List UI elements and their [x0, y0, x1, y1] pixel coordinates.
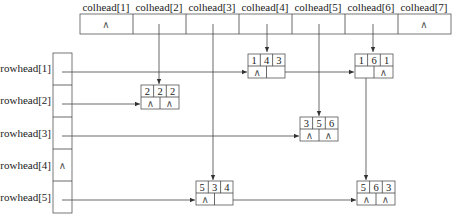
node-down-null: ∧	[306, 130, 313, 141]
node-1-6-1: 1 6 1 ∧	[355, 54, 393, 78]
node-val: 4	[224, 182, 230, 193]
colhead-label-6: colhead[6]	[347, 1, 394, 13]
node-val: 3	[276, 55, 281, 66]
rowhead-array: ∧	[53, 53, 72, 213]
colhead-label-7: colhead[7]	[400, 1, 447, 13]
node-row: 3	[304, 118, 309, 129]
node-right-null: ∧	[382, 194, 389, 205]
node-2-2-2: 2 2 2 ∧ ∧	[141, 85, 179, 109]
node-down-null: ∧	[254, 67, 261, 78]
node-val: 3	[386, 182, 391, 193]
node-1-4-3: 1 4 3 ∧	[248, 54, 285, 78]
orthogonal-list-diagram: colhead[1] colhead[2] colhead[3] colhead…	[0, 0, 455, 219]
node-row: 1	[359, 55, 364, 66]
colhead-label-3: colhead[3]	[188, 1, 235, 13]
node-col: 4	[264, 55, 270, 66]
node-val: 1	[384, 55, 389, 66]
node-down-null: ∧	[147, 98, 154, 109]
colhead-label-4: colhead[4]	[241, 1, 288, 13]
node-3-5-6: 3 5 6 ∧ ∧	[300, 117, 338, 141]
colhead-array: ∧ ∧	[80, 14, 451, 34]
rowhead-label-1: rowhead[1]	[0, 62, 51, 74]
node-col: 3	[212, 182, 217, 193]
node-row: 5	[361, 182, 366, 193]
rowhead-array-frame	[53, 53, 72, 213]
col-pointers	[159, 24, 373, 180]
node-col: 6	[373, 182, 378, 193]
rowhead-label-3: rowhead[3]	[0, 127, 51, 139]
colhead-label-1: colhead[1]	[82, 1, 129, 13]
node-col: 6	[371, 55, 376, 66]
colhead-1-null: ∧	[102, 19, 109, 30]
colhead-labels: colhead[1] colhead[2] colhead[3] colhead…	[82, 1, 447, 13]
node-right-null: ∧	[380, 67, 387, 78]
node-row: 1	[252, 55, 257, 66]
colhead-array-frame	[80, 14, 451, 34]
rowhead-label-5: rowhead[5]	[0, 191, 51, 203]
node-right-null: ∧	[166, 98, 173, 109]
node-down-null: ∧	[363, 194, 370, 205]
rowhead-label-2: rowhead[2]	[0, 94, 51, 106]
node-col: 5	[316, 118, 321, 129]
rowhead-4-null: ∧	[59, 160, 66, 171]
node-row: 5	[200, 182, 205, 193]
node-row: 2	[145, 86, 150, 97]
node-val: 2	[170, 86, 175, 97]
node-down-null: ∧	[202, 194, 209, 205]
rowhead-labels: rowhead[1] rowhead[2] rowhead[3] rowhead…	[0, 62, 51, 203]
colhead-label-5: colhead[5]	[294, 1, 341, 13]
rowhead-label-4: rowhead[4]	[0, 159, 51, 171]
node-val: 6	[329, 118, 334, 129]
node-right-null: ∧	[325, 130, 332, 141]
node-5-6-3: 5 6 3 ∧ ∧	[357, 181, 395, 205]
node-col: 2	[157, 86, 162, 97]
node-5-3-4: 5 3 4 ∧	[196, 181, 233, 205]
colhead-label-2: colhead[2]	[135, 1, 182, 13]
colhead-7-null: ∧	[420, 19, 427, 30]
